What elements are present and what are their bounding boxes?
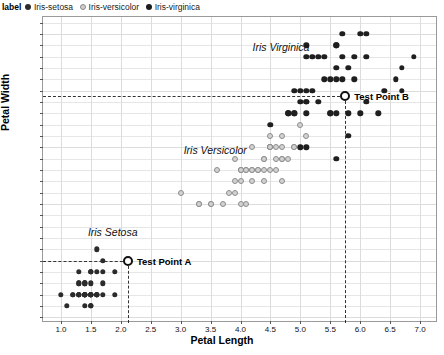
y-tick-mark — [40, 295, 43, 296]
gridline-v — [330, 17, 331, 321]
x-tick-label: 2.5 — [138, 325, 164, 334]
data-point — [291, 144, 297, 150]
legend-item-iris-virginica[interactable]: Iris-virginica — [146, 2, 200, 12]
gridline-h — [43, 34, 436, 35]
legend-marker-icon-versicolor — [80, 4, 86, 10]
test-point-guide-vertical — [345, 96, 346, 323]
x-tick-mark — [211, 321, 212, 324]
y-tick-mark — [40, 68, 43, 69]
cluster-annotation: Iris Virginica — [252, 41, 309, 53]
data-point — [196, 201, 202, 207]
test-point-guide-horizontal — [43, 96, 345, 97]
test-point-marker-icon[interactable] — [340, 91, 350, 101]
y-tick-mark — [40, 34, 43, 35]
cluster-annotation: Iris Versicolor — [184, 144, 247, 156]
x-tick-label: 4.0 — [228, 325, 254, 334]
gridline-v — [61, 17, 62, 321]
x-tick-label: 4.5 — [257, 325, 283, 334]
test-point-marker-icon[interactable] — [123, 256, 133, 266]
x-tick-label: 1.0 — [48, 325, 74, 334]
x-tick-label: 3.0 — [168, 325, 194, 334]
x-tick-label: 7.0 — [407, 325, 433, 334]
y-tick-mark — [40, 317, 43, 318]
data-point — [279, 178, 285, 184]
data-point — [297, 122, 303, 128]
gridline-h — [43, 215, 436, 216]
data-point — [178, 190, 184, 196]
x-tick-mark — [420, 321, 421, 324]
chart-root: label Iris-setosa Iris-versicolor Iris-v… — [0, 0, 444, 355]
y-tick-mark — [40, 136, 43, 137]
x-tick-mark — [241, 321, 242, 324]
legend-marker-icon-setosa — [25, 4, 31, 10]
gridline-h — [43, 68, 436, 69]
y-tick-mark — [40, 125, 43, 126]
data-point — [232, 190, 238, 196]
gridline-h — [43, 125, 436, 126]
gridline-h — [43, 79, 436, 80]
data-point — [261, 156, 267, 162]
test-point-label: Test Point B — [354, 91, 409, 102]
x-tick-mark — [121, 321, 122, 324]
gridline-v — [300, 17, 301, 321]
y-tick-mark — [40, 238, 43, 239]
y-tick-mark — [40, 227, 43, 228]
data-point — [232, 156, 238, 162]
gridline-h — [43, 159, 436, 160]
y-tick-mark — [40, 57, 43, 58]
y-tick-mark — [40, 215, 43, 216]
legend-marker-icon-virginica — [146, 4, 152, 10]
y-tick-mark — [40, 249, 43, 250]
legend-item-iris-setosa[interactable]: Iris-setosa — [25, 2, 73, 12]
y-tick-mark — [40, 23, 43, 24]
gridline-v — [151, 17, 152, 321]
data-point — [214, 167, 220, 173]
data-point — [267, 144, 273, 150]
y-tick-mark — [40, 181, 43, 182]
x-tick-label: 5.0 — [287, 325, 313, 334]
x-tick-label: 1.5 — [78, 325, 104, 334]
data-point — [279, 133, 285, 139]
x-tick-mark — [300, 321, 301, 324]
cluster-annotation: Iris Setosa — [88, 226, 138, 238]
y-tick-mark — [40, 147, 43, 148]
gridline-v — [360, 17, 361, 321]
y-tick-mark — [40, 102, 43, 103]
x-tick-mark — [390, 321, 391, 324]
data-point — [243, 201, 249, 207]
data-point — [273, 167, 279, 173]
data-point — [243, 167, 249, 173]
legend-label-virginica: Iris-virginica — [155, 2, 200, 12]
data-point — [220, 201, 226, 207]
legend-title: label — [2, 2, 21, 12]
x-tick-label: 6.0 — [347, 325, 373, 334]
y-tick-mark — [40, 272, 43, 273]
gridline-h — [43, 249, 436, 250]
legend-item-iris-versicolor[interactable]: Iris-versicolor — [80, 2, 139, 12]
chart-legend: label Iris-setosa Iris-versicolor Iris-v… — [2, 0, 207, 13]
x-tick-mark — [91, 321, 92, 324]
gridline-v — [390, 17, 391, 321]
gridline-v — [181, 17, 182, 321]
data-point — [261, 167, 267, 173]
gridline-v — [420, 17, 421, 321]
x-tick-label: 5.5 — [317, 325, 343, 334]
data-point — [226, 190, 232, 196]
data-point — [255, 167, 261, 173]
x-tick-mark — [151, 321, 152, 324]
gridline-v — [91, 17, 92, 321]
test-point-label: Test Point A — [137, 255, 191, 266]
y-tick-mark — [40, 91, 43, 92]
data-point — [249, 178, 255, 184]
gridline-h — [43, 45, 436, 46]
data-point — [261, 178, 267, 184]
data-point — [238, 178, 244, 184]
x-tick-label: 6.5 — [377, 325, 403, 334]
x-tick-mark — [360, 321, 361, 324]
y-tick-mark — [40, 113, 43, 114]
y-tick-mark — [40, 283, 43, 284]
data-point — [273, 156, 279, 162]
x-tick-mark — [270, 321, 271, 324]
data-point — [279, 144, 285, 150]
test-point-guide-vertical — [128, 261, 129, 323]
